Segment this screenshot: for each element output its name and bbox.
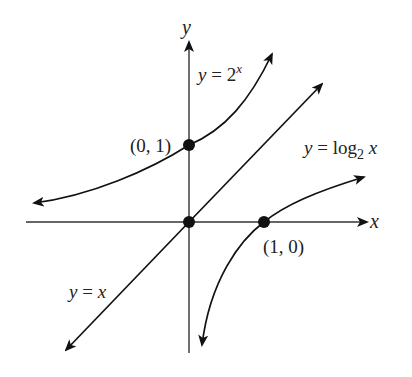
y-axis-label: y xyxy=(180,16,191,39)
log-label: y = log2 x xyxy=(302,137,378,162)
log-curve-upper xyxy=(264,177,364,222)
point-1-0 xyxy=(258,216,270,228)
function-graph: y x y = 2x y = log2 x y = x (0, 1) (1, 0… xyxy=(0,0,412,377)
point-origin xyxy=(183,216,195,228)
log-curve xyxy=(202,222,264,345)
identity-label: y = x xyxy=(67,281,107,302)
exp-label: y = 2x xyxy=(196,61,242,85)
point-0-1-label: (0, 1) xyxy=(130,135,171,157)
point-1-0-label: (1, 0) xyxy=(263,236,304,258)
identity-line-upper xyxy=(189,84,322,222)
x-axis-label: x xyxy=(369,210,379,232)
point-0-1 xyxy=(183,139,195,151)
